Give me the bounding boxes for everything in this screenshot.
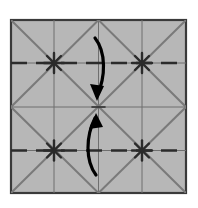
origami-svg-canvas xyxy=(0,0,198,208)
origami-diagram xyxy=(0,0,198,208)
